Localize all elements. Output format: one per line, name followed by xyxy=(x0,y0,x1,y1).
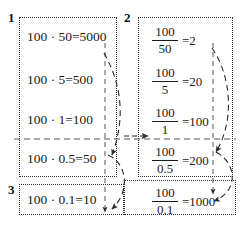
group-3-label: 3 xyxy=(8,183,15,196)
group-1-label: 1 xyxy=(8,11,15,24)
mul-row-2: 100 · 5=500 xyxy=(27,73,93,87)
fraction-3-denominator: 1 xyxy=(160,122,171,137)
fraction-4-result: =200 xyxy=(182,154,209,167)
fraction-5: 100 0.1 xyxy=(152,186,178,216)
fraction-4-denominator: 0.5 xyxy=(155,161,175,176)
mul-row-1-text: 100 · 50=5000 xyxy=(27,29,107,44)
mul-row-2-text: 100 · 5=500 xyxy=(27,72,93,87)
mul-row-4: 100 · 0.5=50 xyxy=(27,152,96,166)
fraction-1-denominator: 50 xyxy=(157,41,174,56)
fraction-1-numerator: 100 xyxy=(153,25,177,40)
fraction-2-result: =20 xyxy=(182,75,202,88)
frac-row-3: 100 1 =100 xyxy=(152,106,209,136)
fraction-5-denominator: 0.1 xyxy=(155,202,175,217)
fraction-2: 100 5 xyxy=(152,66,178,96)
fraction-4-numerator: 100 xyxy=(153,145,177,160)
fraction-1: 100 50 xyxy=(152,25,178,55)
frac-row-1: 100 50 =2 xyxy=(152,25,196,55)
fraction-2-denominator: 5 xyxy=(160,82,171,97)
fraction-1-result: =2 xyxy=(182,34,196,47)
frac-row-2: 100 5 =20 xyxy=(152,66,202,96)
group-2-label: 2 xyxy=(124,11,131,24)
fraction-5-numerator: 100 xyxy=(153,186,177,201)
fraction-5-result: =1000 xyxy=(182,195,215,208)
frac-row-4: 100 0.5 =200 xyxy=(152,145,209,175)
fraction-3: 100 1 xyxy=(152,106,178,136)
fraction-3-numerator: 100 xyxy=(153,106,177,121)
math-figure: 1 2 3 100 · 50=5000 100 · 5=500 100 · 1=… xyxy=(0,0,250,225)
mul-row-5-text: 100 · 0.1=10 xyxy=(27,192,96,207)
mul-row-4-text: 100 · 0.5=50 xyxy=(27,151,96,166)
mul-row-3: 100 · 1=100 xyxy=(27,113,93,127)
fraction-2-numerator: 100 xyxy=(153,66,177,81)
mul-row-3-text: 100 · 1=100 xyxy=(27,112,93,127)
mul-row-5: 100 · 0.1=10 xyxy=(27,193,96,207)
fraction-4: 100 0.5 xyxy=(152,145,178,175)
mul-row-1: 100 · 50=5000 xyxy=(27,30,107,44)
frac-row-5: 100 0.1 =1000 xyxy=(152,186,215,216)
fraction-3-result: =100 xyxy=(182,115,209,128)
